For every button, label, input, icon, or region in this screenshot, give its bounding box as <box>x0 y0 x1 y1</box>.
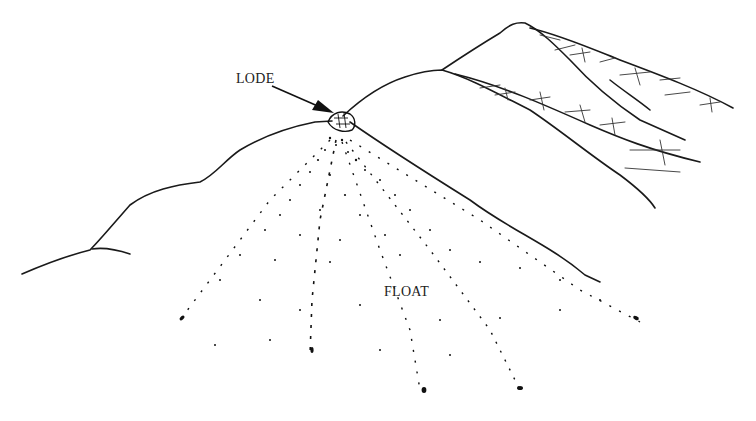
main-slope-line <box>350 122 600 282</box>
float-scatter <box>179 137 640 393</box>
middle-ridge-lower <box>455 74 700 162</box>
lode-label: LODE <box>236 71 275 87</box>
spur-ridge <box>92 248 130 254</box>
diagram-canvas: LODE FLOAT <box>0 0 756 421</box>
hillside-illustration <box>0 0 756 421</box>
lode-pointer-arrow <box>272 86 334 113</box>
left-hill-ridge <box>22 121 332 274</box>
float-label: FLOAT <box>384 284 429 300</box>
back-ridge <box>442 23 685 140</box>
back-ridge-fold <box>610 80 650 110</box>
middle-ridge <box>343 70 655 208</box>
